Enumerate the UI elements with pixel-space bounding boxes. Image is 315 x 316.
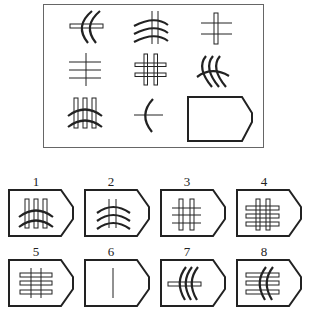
option-7 xyxy=(161,260,225,306)
option-5 xyxy=(9,260,73,306)
option-8 xyxy=(237,260,301,306)
option-label-2: 2 xyxy=(101,174,121,190)
option-4 xyxy=(237,190,301,236)
cell-3-3-missing xyxy=(188,97,252,141)
option-label-5: 5 xyxy=(26,244,46,260)
option-label-6: 6 xyxy=(101,244,121,260)
option-label-1: 1 xyxy=(26,174,46,190)
option-label-8: 8 xyxy=(254,244,274,260)
option-3 xyxy=(161,190,225,236)
option-2 xyxy=(85,190,149,236)
option-label-4: 4 xyxy=(254,174,274,190)
option-6 xyxy=(85,260,149,306)
option-label-7: 7 xyxy=(177,244,197,260)
option-label-3: 3 xyxy=(177,174,197,190)
puzzle-grid xyxy=(0,0,315,160)
option-1 xyxy=(9,190,73,236)
